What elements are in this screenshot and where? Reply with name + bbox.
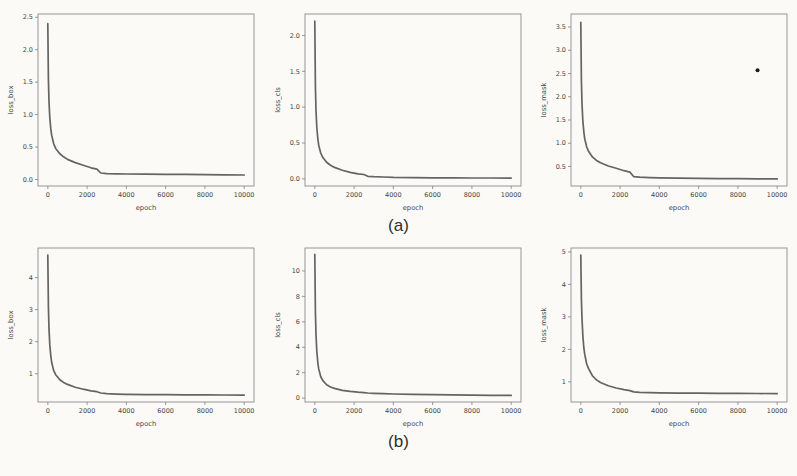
chart-loss-box-b: 02000400060008000100001234epochloss_box: [4, 240, 262, 430]
chart-loss-cls-b: 02000400060008000100000246810epochloss_c…: [271, 240, 529, 430]
figure-page: 02000400060008000100000.00.51.01.52.02.5…: [0, 0, 797, 476]
svg-text:2000: 2000: [345, 407, 362, 415]
svg-text:2000: 2000: [79, 191, 96, 199]
svg-text:1.0: 1.0: [556, 139, 566, 147]
svg-text:3: 3: [29, 306, 33, 314]
svg-text:loss_cls: loss_cls: [274, 87, 282, 113]
svg-text:2.0: 2.0: [556, 93, 566, 101]
svg-text:1.0: 1.0: [289, 103, 299, 111]
svg-text:10000: 10000: [767, 407, 788, 415]
svg-text:8000: 8000: [463, 191, 480, 199]
svg-text:8000: 8000: [463, 407, 480, 415]
svg-text:4000: 4000: [651, 191, 668, 199]
svg-text:loss_mask: loss_mask: [540, 83, 548, 118]
svg-text:2000: 2000: [79, 407, 96, 415]
subfigure-row-b: 02000400060008000100001234epochloss_box …: [0, 240, 797, 430]
svg-text:8000: 8000: [197, 407, 214, 415]
svg-text:0: 0: [579, 191, 583, 199]
svg-text:0: 0: [46, 191, 50, 199]
svg-text:10000: 10000: [234, 407, 255, 415]
svg-text:8: 8: [295, 293, 299, 301]
svg-text:8000: 8000: [730, 191, 747, 199]
svg-text:2.0: 2.0: [23, 46, 33, 54]
svg-text:10000: 10000: [500, 407, 521, 415]
svg-text:epoch: epoch: [402, 204, 423, 212]
svg-text:4000: 4000: [385, 407, 402, 415]
svg-text:6000: 6000: [424, 191, 441, 199]
svg-text:6000: 6000: [690, 191, 707, 199]
svg-text:4: 4: [29, 274, 33, 282]
chart-loss-cls-a: 02000400060008000100000.00.51.01.52.0epo…: [271, 6, 529, 214]
svg-text:3.5: 3.5: [556, 23, 566, 31]
svg-text:3.0: 3.0: [556, 46, 566, 54]
loss-mask-line-chart-a: 02000400060008000100000.51.01.52.02.53.0…: [537, 6, 795, 214]
svg-text:0: 0: [295, 394, 299, 402]
chart-loss-mask-a: 02000400060008000100000.51.01.52.02.53.0…: [537, 6, 795, 214]
svg-text:2000: 2000: [612, 407, 629, 415]
svg-text:0.0: 0.0: [289, 175, 299, 183]
svg-text:6000: 6000: [157, 191, 174, 199]
svg-text:loss_box: loss_box: [7, 311, 15, 340]
svg-text:10000: 10000: [234, 191, 255, 199]
svg-text:10000: 10000: [767, 191, 788, 199]
svg-text:loss_mask: loss_mask: [540, 308, 548, 343]
svg-text:1: 1: [562, 378, 566, 386]
chart-loss-mask-b: 020004000600080001000012345epochloss_mas…: [537, 240, 795, 430]
svg-text:6000: 6000: [690, 407, 707, 415]
svg-text:5: 5: [562, 248, 566, 256]
loss-cls-line-chart-b: 02000400060008000100000246810epochloss_c…: [271, 240, 529, 430]
subfigure-row-a: 02000400060008000100000.00.51.01.52.02.5…: [0, 0, 797, 214]
svg-text:3: 3: [562, 313, 566, 321]
svg-text:2.0: 2.0: [289, 32, 299, 40]
svg-text:2: 2: [29, 338, 33, 346]
svg-text:2000: 2000: [345, 191, 362, 199]
svg-text:4: 4: [562, 281, 566, 289]
svg-text:4000: 4000: [118, 191, 135, 199]
svg-text:0: 0: [312, 191, 316, 199]
svg-text:epoch: epoch: [669, 204, 690, 212]
svg-text:6000: 6000: [157, 407, 174, 415]
svg-text:1.5: 1.5: [556, 116, 566, 124]
svg-text:0: 0: [579, 407, 583, 415]
svg-text:epoch: epoch: [136, 204, 157, 212]
svg-text:1.0: 1.0: [23, 111, 33, 119]
svg-text:10: 10: [291, 267, 299, 275]
svg-text:1.5: 1.5: [289, 68, 299, 76]
svg-text:loss_cls: loss_cls: [274, 312, 282, 338]
svg-text:8000: 8000: [197, 191, 214, 199]
svg-text:0.5: 0.5: [556, 163, 566, 171]
svg-text:0.5: 0.5: [289, 139, 299, 147]
svg-text:8000: 8000: [730, 407, 747, 415]
svg-text:1: 1: [29, 370, 33, 378]
svg-text:2: 2: [295, 369, 299, 377]
svg-text:10000: 10000: [500, 191, 521, 199]
svg-text:0: 0: [312, 407, 316, 415]
svg-text:epoch: epoch: [136, 420, 157, 428]
subfigure-caption-a: (a): [0, 214, 797, 240]
loss-box-line-chart-a: 02000400060008000100000.00.51.01.52.02.5…: [4, 6, 262, 214]
chart-loss-box-a: 02000400060008000100000.00.51.01.52.02.5…: [4, 6, 262, 214]
svg-text:epoch: epoch: [402, 420, 423, 428]
svg-text:2.5: 2.5: [556, 70, 566, 78]
svg-text:loss_box: loss_box: [7, 86, 15, 115]
svg-text:6000: 6000: [424, 407, 441, 415]
loss-cls-line-chart-a: 02000400060008000100000.00.51.01.52.0epo…: [271, 6, 529, 214]
svg-text:4000: 4000: [118, 407, 135, 415]
svg-text:0.0: 0.0: [23, 176, 33, 184]
loss-mask-line-chart-b: 020004000600080001000012345epochloss_mas…: [537, 240, 795, 430]
svg-text:6: 6: [295, 318, 299, 326]
svg-text:0: 0: [46, 407, 50, 415]
svg-text:0.5: 0.5: [23, 143, 33, 151]
svg-text:4: 4: [295, 343, 299, 351]
svg-text:4000: 4000: [385, 191, 402, 199]
svg-text:1.5: 1.5: [23, 78, 33, 86]
loss-box-line-chart-b: 02000400060008000100001234epochloss_box: [4, 240, 262, 430]
svg-text:4000: 4000: [651, 407, 668, 415]
svg-text:epoch: epoch: [669, 420, 690, 428]
svg-text:2: 2: [562, 346, 566, 354]
subfigure-caption-b: (b): [0, 430, 797, 456]
svg-text:2.5: 2.5: [23, 13, 33, 21]
svg-text:2000: 2000: [612, 191, 629, 199]
